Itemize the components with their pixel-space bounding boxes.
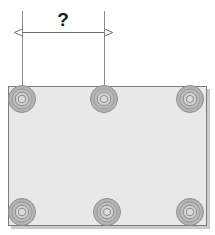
hole-bottom-center	[94, 199, 121, 226]
hole-core	[186, 208, 194, 216]
hole-core	[18, 208, 26, 216]
hole-top-center	[91, 86, 118, 113]
hole-bottom-right	[177, 199, 204, 226]
hole-core	[104, 208, 111, 216]
hole-core	[101, 95, 108, 103]
plate-dimension-drawing: ?	[0, 0, 215, 235]
hole-top-left	[9, 86, 36, 113]
hole-core	[187, 95, 194, 103]
drawing-canvas: ?	[0, 0, 215, 235]
hole-bottom-left	[9, 199, 36, 226]
hole-top-right	[177, 86, 204, 113]
hole-core	[18, 95, 26, 103]
dimension-label: ?	[57, 9, 69, 30]
